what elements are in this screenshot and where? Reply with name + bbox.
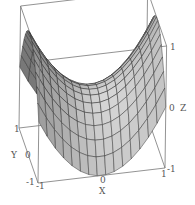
saddle-surface bbox=[20, 15, 166, 175]
surface-patch bbox=[96, 156, 106, 176]
surface-patch bbox=[104, 136, 114, 156]
z-tick-min: -1 bbox=[167, 164, 176, 174]
surface-patch bbox=[88, 156, 98, 176]
surface-patch bbox=[90, 94, 100, 103]
surface-patch bbox=[105, 153, 115, 175]
surface-patch bbox=[82, 94, 92, 103]
y-axis-label: Y bbox=[10, 150, 18, 160]
surface-patch bbox=[93, 112, 103, 125]
surface-patch bbox=[79, 152, 88, 174]
x-tick-mid: 0 bbox=[100, 175, 106, 185]
surface-patch bbox=[86, 125, 96, 141]
surface-patch bbox=[84, 112, 94, 126]
y-tick-min: -1 bbox=[26, 177, 35, 187]
surface-patch bbox=[95, 139, 105, 157]
surface-patch bbox=[83, 102, 93, 113]
z-axis-label: Z bbox=[180, 103, 186, 113]
z-tick-mid: 0 bbox=[169, 103, 175, 113]
y-tick-max: 1 bbox=[14, 124, 20, 134]
x-tick-min: -1 bbox=[36, 181, 45, 191]
x-tick-max: 1 bbox=[161, 169, 167, 179]
surface-patch bbox=[92, 102, 102, 113]
surface-patch bbox=[94, 125, 104, 141]
surface-patch bbox=[87, 139, 97, 157]
z-tick-max: 1 bbox=[170, 42, 176, 52]
y-tick-mid: 0 bbox=[25, 150, 31, 160]
x-axis-label: X bbox=[99, 186, 106, 196]
surface-plot: 1 0 Z -1 1 0 Y -1 -1 0 X 1 bbox=[0, 0, 195, 205]
box-edge bbox=[21, 0, 148, 6]
